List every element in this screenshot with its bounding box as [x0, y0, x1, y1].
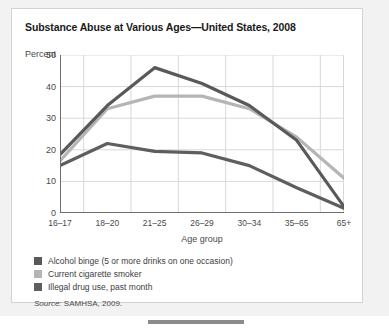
- legend-item[interactable]: Alcohol binge (5 or more drinks on one o…: [34, 255, 233, 267]
- x-tick-label: 26–29: [190, 218, 214, 228]
- y-tick-label: 40: [46, 82, 56, 92]
- figure-card: Substance Abuse at Various Ages—United S…: [11, 8, 363, 303]
- x-tick-label: 16–17: [48, 218, 72, 228]
- chart-legend: Alcohol binge (5 or more drinks on one o…: [34, 255, 233, 294]
- horizontal-scrollbar-track[interactable]: [0, 316, 389, 328]
- y-tick-label: 50: [46, 50, 56, 60]
- y-tick-label: 0: [51, 208, 56, 218]
- plot-area: 01020304050 16–1718–2021–2526–2930–3435–…: [60, 55, 344, 213]
- x-axis-label: Age group: [60, 234, 344, 244]
- chart-title: Substance Abuse at Various Ages—United S…: [25, 21, 296, 33]
- x-tick-label: 65+: [337, 218, 351, 228]
- series-line: [60, 68, 344, 207]
- series-lines: [60, 68, 344, 209]
- vertical-gridlines: [84, 55, 344, 213]
- legend-swatch-icon: [34, 283, 42, 291]
- y-tick-label: 10: [46, 176, 56, 186]
- x-tick-label: 30–34: [238, 218, 262, 228]
- y-tick-label: 30: [46, 113, 56, 123]
- legend-label: Illegal drug use, past month: [48, 282, 152, 292]
- line-chart-svg: [60, 55, 344, 213]
- legend-label: Current cigarette smoker: [48, 269, 142, 279]
- legend-item[interactable]: Current cigarette smoker: [34, 268, 233, 280]
- x-tick-label: 21–25: [143, 218, 167, 228]
- x-tick-label: 18–20: [96, 218, 120, 228]
- page-root: Substance Abuse at Various Ages—United S…: [0, 0, 389, 328]
- legend-swatch-icon: [34, 257, 42, 265]
- source-prefix: Source:: [34, 299, 62, 308]
- horizontal-gridlines: [60, 55, 344, 181]
- x-tick-label: 35–65: [285, 218, 309, 228]
- y-tick-label: 20: [46, 145, 56, 155]
- source-text: SAMHSA, 2009.: [62, 299, 122, 308]
- legend-item[interactable]: Illegal drug use, past month: [34, 281, 233, 293]
- source-note: Source: SAMHSA, 2009.: [34, 299, 122, 308]
- legend-label: Alcohol binge (5 or more drinks on one o…: [48, 256, 233, 266]
- horizontal-scrollbar-thumb[interactable]: [148, 320, 244, 324]
- legend-swatch-icon: [34, 270, 42, 278]
- series-line: [60, 143, 344, 208]
